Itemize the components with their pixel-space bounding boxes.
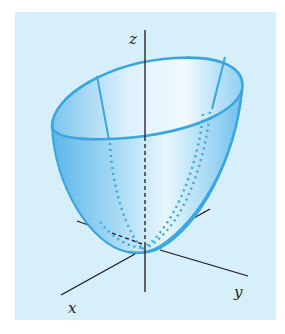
x-axis-label: x bbox=[68, 299, 77, 317]
y-axis bbox=[160, 250, 248, 276]
z-axis-label: z bbox=[128, 30, 137, 48]
y-axis-label: y bbox=[233, 283, 243, 301]
x-axis bbox=[61, 254, 135, 295]
paraboloid-diagram: z x y bbox=[0, 0, 285, 334]
